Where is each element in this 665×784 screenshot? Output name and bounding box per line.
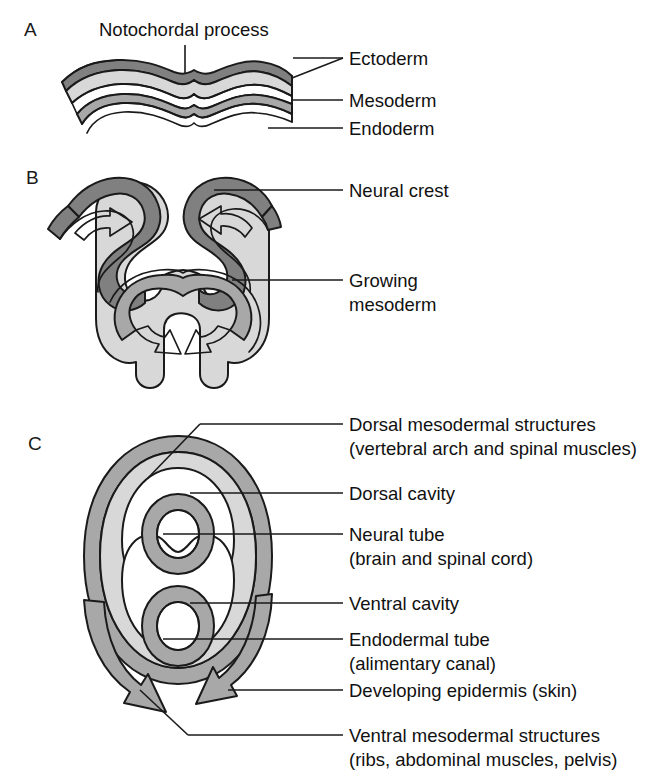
label-ectoderm: Ectoderm (349, 48, 428, 69)
label-neural-tube-line2: (brain and spinal cord) (349, 548, 533, 569)
label-neural-crest: Neural crest (349, 180, 449, 201)
figure-background (0, 0, 665, 784)
embryo-development-figure: A Notochordal process Ectoderm Mesoderm … (0, 0, 665, 784)
label-ventral-mesodermal-line2: (ribs, abdominal muscles, pelvis) (349, 749, 617, 770)
panel-a-title: Notochordal process (99, 19, 269, 40)
label-endoderm: Endoderm (349, 118, 434, 139)
label-growing-mesoderm-line2: mesoderm (349, 294, 436, 315)
label-developing-epidermis: Developing epidermis (skin) (349, 680, 577, 701)
panel-c-letter: C (28, 433, 42, 454)
label-mesoderm: Mesoderm (349, 90, 436, 111)
label-ventral-mesodermal-line1: Ventral mesodermal structures (349, 725, 600, 746)
label-neural-tube-line1: Neural tube (349, 524, 445, 545)
label-endodermal-tube-line2: (alimentary canal) (349, 653, 496, 674)
label-dorsal-cavity: Dorsal cavity (349, 483, 456, 504)
label-dorsal-mesodermal-line1: Dorsal mesodermal structures (349, 414, 596, 435)
label-endodermal-tube-line1: Endodermal tube (349, 629, 490, 650)
label-ventral-cavity: Ventral cavity (349, 593, 460, 614)
label-dorsal-mesodermal-line2: (vertebral arch and spinal muscles) (349, 438, 637, 459)
label-growing-mesoderm-line1: Growing (349, 270, 418, 291)
panel-a-letter: A (24, 19, 37, 40)
panel-b-letter: B (26, 167, 39, 188)
